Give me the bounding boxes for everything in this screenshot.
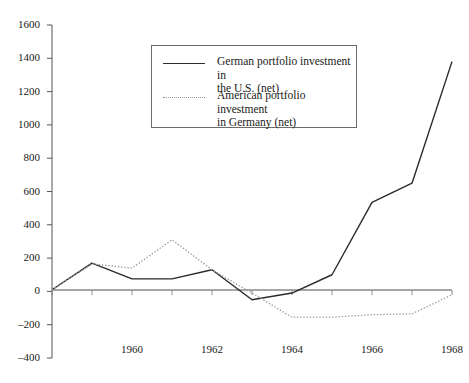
- y-axis-tick-label: 400: [0, 219, 40, 230]
- legend-entry-american: American portfolio investment in Germany…: [152, 89, 356, 123]
- legend-label-american-line1: American portfolio investment: [217, 89, 305, 115]
- y-axis-tick-label: 1000: [0, 119, 40, 130]
- y-axis-tick-label: 1600: [0, 19, 40, 30]
- chart-legend: German portfolio investment in the U.S. …: [151, 45, 357, 128]
- series-line-american: [52, 240, 452, 317]
- dotted-line-swatch: [163, 97, 205, 101]
- solid-line-swatch: [163, 63, 205, 67]
- y-axis-tick-label: –200: [0, 319, 40, 330]
- y-axis-tick-label: 600: [0, 186, 40, 197]
- x-axis-tick-label: 1960: [112, 344, 152, 355]
- x-axis-tick-label: 1962: [192, 344, 232, 355]
- line-chart: –400–20002004006008001000120014001600 19…: [0, 0, 469, 383]
- y-axis-ticks: [47, 25, 52, 358]
- legend-label-german-line1: German portfolio investment in: [217, 55, 351, 81]
- y-axis-tick-label: 1400: [0, 52, 40, 63]
- y-axis-tick-label: 1200: [0, 86, 40, 97]
- y-axis-tick-label: 800: [0, 152, 40, 163]
- legend-label-american-line2: in Germany (net): [217, 116, 296, 128]
- x-axis-tick-label: 1968: [432, 344, 469, 355]
- x-axis-tick-label: 1966: [352, 344, 392, 355]
- y-axis-tick-label: 0: [0, 285, 40, 296]
- x-axis-tick-label: 1964: [272, 344, 312, 355]
- y-axis-tick-label: –400: [0, 352, 40, 363]
- y-axis-tick-label: 200: [0, 252, 40, 263]
- legend-entry-german: German portfolio investment in the U.S. …: [152, 55, 356, 89]
- legend-label-american: American portfolio investment in Germany…: [217, 89, 352, 130]
